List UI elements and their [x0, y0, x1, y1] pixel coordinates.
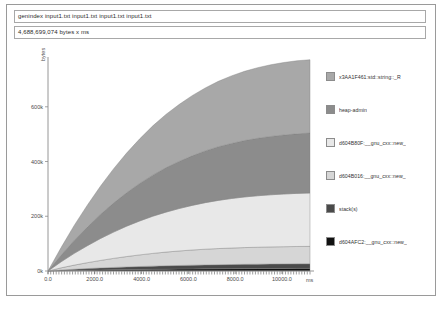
legend-item[interactable]: d604B80F:__gnu_cxx::new_ — [326, 137, 426, 148]
legend-item[interactable]: d604AFC2:__gnu_cxx::new_ — [326, 236, 426, 247]
chart-plot-area[interactable]: 0k200k400k600k0.02000.04000.06000.08000.… — [14, 45, 320, 293]
legend-swatch-icon — [326, 237, 335, 246]
legend-swatch-icon — [326, 138, 335, 147]
y-axis-unit-label: bytes — [40, 48, 46, 61]
x-tick-label: 0.0 — [44, 276, 52, 282]
legend-label: d604AFC2:__gnu_cxx::new_ — [339, 239, 407, 245]
legend-label: d604B80F:__gnu_cxx::new_ — [339, 140, 406, 146]
x-axis-unit-label: ms — [306, 277, 313, 283]
window-frame: genindex input1.txt input1.txt input1.tx… — [6, 4, 436, 296]
y-tick-label: 0k — [37, 268, 43, 274]
legend-label: x3AA1F461:std::string::_R — [339, 74, 401, 80]
legend-label: heap-admin — [339, 107, 367, 113]
legend-swatch-icon — [326, 171, 335, 180]
y-tick-label: 400k — [31, 159, 43, 165]
y-tick-label: 200k — [31, 213, 43, 219]
total-bytes-field[interactable]: 4,688,699,074 bytes x ms — [14, 26, 426, 39]
legend-item[interactable]: heap-admin — [326, 104, 426, 115]
x-tick-label: 6000.0 — [180, 276, 197, 282]
stacked-area-chart: 0k200k400k600k0.02000.04000.06000.08000.… — [14, 45, 320, 293]
legend-item[interactable]: x3AA1F461:std::string::_R — [326, 71, 426, 82]
legend-swatch-icon — [326, 204, 335, 213]
plot-panel: 0k200k400k600k0.02000.04000.06000.08000.… — [14, 45, 426, 293]
x-tick-label: 8000.0 — [227, 276, 244, 282]
chart-legend: x3AA1F461:std::string::_Rheap-admind604B… — [326, 71, 426, 269]
header-fields: genindex input1.txt input1.txt input1.tx… — [14, 10, 426, 39]
legend-item[interactable]: d604B016:__gnu_cxx::new_ — [326, 170, 426, 181]
x-tick-label: 2000.0 — [86, 276, 103, 282]
heap-profile-window: genindex input1.txt input1.txt input1.tx… — [0, 0, 442, 310]
command-field[interactable]: genindex input1.txt input1.txt input1.tx… — [14, 10, 426, 23]
legend-label: d604B016:__gnu_cxx::new_ — [339, 173, 406, 179]
y-tick-label: 600k — [31, 104, 43, 110]
legend-label: stack(s) — [339, 206, 358, 212]
x-tick-label: 4000.0 — [133, 276, 150, 282]
legend-item[interactable]: stack(s) — [326, 203, 426, 214]
x-tick-label: 10000.0 — [272, 276, 292, 282]
legend-swatch-icon — [326, 105, 335, 114]
legend-swatch-icon — [326, 72, 335, 81]
